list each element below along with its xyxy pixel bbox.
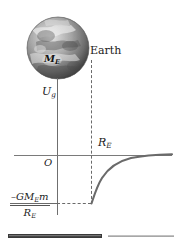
earth-globe-svg — [26, 16, 90, 80]
fraction-numerator: –GMEm — [10, 192, 50, 205]
fraction-divider — [10, 205, 50, 206]
earth-radius-label: RE — [98, 137, 112, 149]
bottom-left-bar — [8, 234, 102, 238]
earth-globe-image — [26, 16, 90, 80]
bottom-right-rule — [108, 235, 174, 237]
earth-radius-dashed-line — [91, 60, 92, 204]
origin-label: O — [44, 158, 52, 168]
gravitational-potential-energy-figure: ME Earth Ug O RE –GMEm RE — [0, 0, 178, 243]
earth-text-label: Earth — [90, 45, 121, 56]
minimum-potential-energy-label: –GMEm RE — [10, 192, 50, 220]
horizontal-axis — [14, 155, 172, 156]
fraction-denominator: RE — [10, 207, 50, 220]
minimum-energy-dashed-line — [57, 203, 91, 204]
vertical-axis — [57, 78, 58, 215]
y-axis-label: Ug — [42, 86, 56, 98]
earth-mass-label: ME — [44, 54, 60, 65]
